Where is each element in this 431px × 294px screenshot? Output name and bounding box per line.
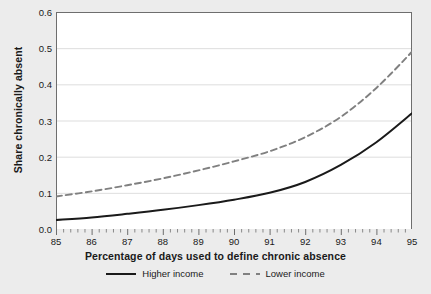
legend-item-higher-income[interactable]: Higher income	[106, 268, 203, 279]
legend-line-swatch	[106, 269, 136, 279]
y-tick-label: 0.0	[4, 224, 52, 235]
y-tick-label: 0.4	[4, 79, 52, 90]
series-line-lower-income	[56, 52, 412, 197]
chart-legend: Higher incomeLower income	[0, 268, 431, 279]
y-tick-label: 0.6	[4, 7, 52, 18]
chart-figure: Share chronically absent 0.00.10.20.30.4…	[0, 0, 431, 294]
y-tick-label: 0.5	[4, 43, 52, 54]
plot-canvas	[56, 12, 412, 229]
legend-item-lower-income[interactable]: Lower income	[230, 268, 325, 279]
y-tick-label: 0.1	[4, 187, 52, 198]
y-tick-label: 0.2	[4, 151, 52, 162]
y-tick-label: 0.3	[4, 115, 52, 126]
legend-label: Higher income	[142, 268, 203, 279]
x-axis-label: Percentage of days used to define chroni…	[0, 250, 431, 262]
x-axis-ticks	[56, 229, 412, 238]
legend-line-swatch	[230, 269, 260, 279]
plot-area	[56, 12, 412, 229]
legend-label: Lower income	[266, 268, 325, 279]
series-line-higher-income	[56, 113, 412, 220]
